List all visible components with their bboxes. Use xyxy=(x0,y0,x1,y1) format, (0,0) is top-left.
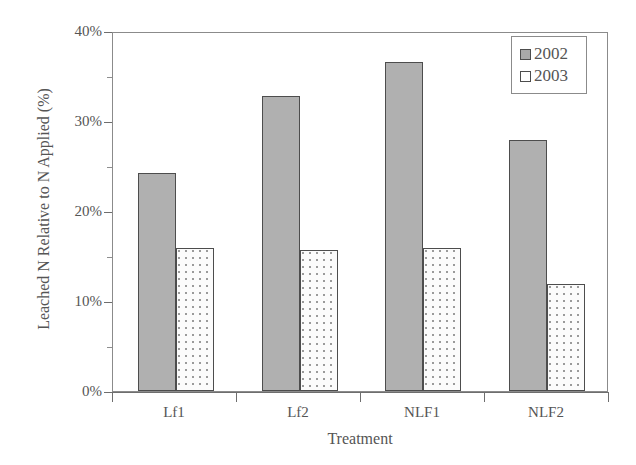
bar-2002-lf2 xyxy=(262,96,300,391)
x-tick-label-lf2: Lf2 xyxy=(238,404,358,421)
y-tick-label-20: 20% xyxy=(42,204,102,219)
y-tick-label-30: 30% xyxy=(42,114,102,129)
x-axis-title: Treatment xyxy=(112,430,608,448)
legend-label-2003: 2003 xyxy=(534,67,568,85)
bar-2003-nlf2 xyxy=(547,284,585,391)
y-tick-label-10: 10% xyxy=(42,294,102,309)
legend-swatch-2003-icon xyxy=(520,71,531,82)
bar-2003-lf1 xyxy=(176,248,214,391)
bar-2002-nlf2 xyxy=(509,140,547,391)
bar-2003-nlf1 xyxy=(423,248,461,391)
legend-item-2003: 2003 xyxy=(520,65,579,87)
x-tick-label-nlf2: NLF2 xyxy=(486,404,606,421)
bar-chart-figure: Leached N Relative to N Applied (%) 40% … xyxy=(0,0,636,465)
legend-label-2002: 2002 xyxy=(534,45,568,63)
x-tick-right-edge xyxy=(608,393,609,402)
x-tick-1 xyxy=(236,393,237,402)
x-tick-label-nlf1: NLF1 xyxy=(362,404,482,421)
x-tick-2 xyxy=(360,393,361,402)
bar-2002-lf1 xyxy=(138,173,176,391)
bar-2002-nlf1 xyxy=(385,62,423,391)
legend-swatch-2002-icon xyxy=(520,49,531,60)
x-tick-3 xyxy=(484,393,485,402)
legend-item-2002: 2002 xyxy=(520,43,579,65)
y-tick-label-40: 40% xyxy=(42,24,102,39)
legend: 2002 2003 xyxy=(511,36,587,94)
x-tick-left-edge xyxy=(112,393,113,402)
x-tick-label-lf1: Lf1 xyxy=(114,404,234,421)
y-tick-label-0: 0% xyxy=(42,384,102,399)
bar-2003-lf2 xyxy=(300,250,338,391)
